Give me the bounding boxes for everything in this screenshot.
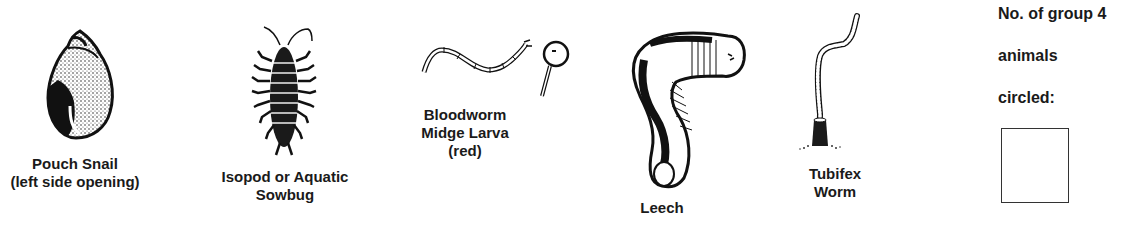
group4-count-box[interactable] <box>1001 128 1069 203</box>
magnifying-glass-icon <box>532 38 572 103</box>
tubifex-figure[interactable] <box>810 14 890 154</box>
tubifex-label: Tubifex Worm <box>790 165 880 201</box>
tally-line-2: animals <box>998 47 1058 65</box>
bloodworm-label: Bloodworm Midge Larva (red) <box>405 106 525 160</box>
tally-line-1: No. of group 4 <box>998 5 1106 23</box>
tubifex-worm-icon <box>810 14 890 154</box>
tally-line-3: circled: <box>998 89 1055 107</box>
leech-icon <box>622 20 752 190</box>
pouch-snail-label: Pouch Snail (left side opening) <box>0 155 150 191</box>
isopod-label: Isopod or Aquatic Sowbug <box>210 168 360 204</box>
pouch-snail-icon <box>40 28 120 143</box>
isopod-icon <box>250 25 320 155</box>
pouch-snail-figure[interactable] <box>40 28 120 143</box>
leech-figure[interactable] <box>622 20 752 190</box>
leech-label: Leech <box>622 199 702 217</box>
bloodworm-figure[interactable] <box>420 38 570 103</box>
isopod-figure[interactable] <box>250 25 320 155</box>
